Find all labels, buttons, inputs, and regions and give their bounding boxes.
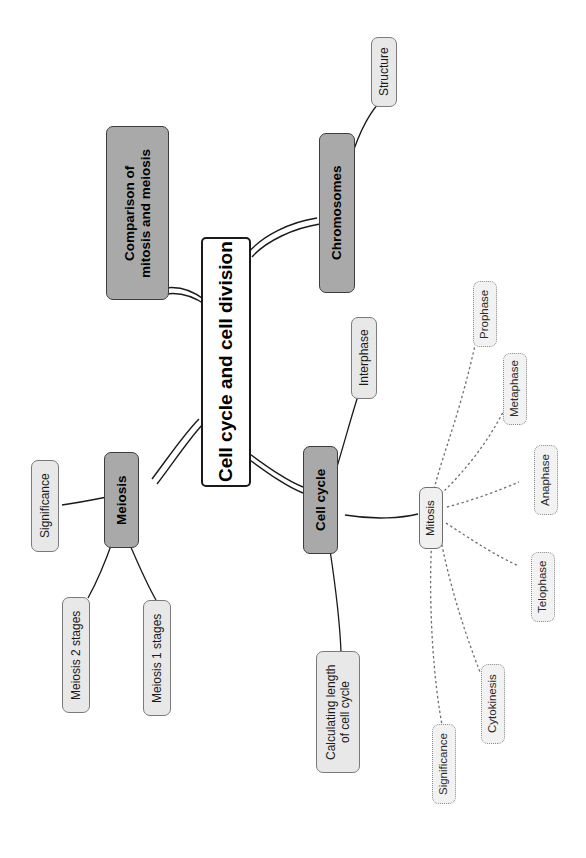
node-telophase[interactable]: Telophase — [531, 552, 555, 622]
node-mitosis[interactable]: Mitosis — [419, 487, 443, 549]
node-meiosis-label: Meiosis — [114, 475, 130, 525]
node-calculating-length-of-cell-cycle[interactable]: Calculating length of cell cycle — [316, 651, 360, 773]
link-meiosis-meiosis1 — [130, 545, 156, 600]
node-cytokinesis-label: Cytokinesis — [486, 675, 500, 734]
node-prophase-label: Prophase — [478, 289, 492, 338]
node-meiosis1-label: Meiosis 1 stages — [150, 613, 164, 702]
mindmap-canvas: Cell cycle and cell division Comparison … — [0, 0, 586, 858]
link-mitosis-prophase — [434, 332, 478, 489]
link-mitosis-significance — [431, 536, 443, 730]
node-interphase-label: Interphase — [357, 330, 371, 387]
node-meiosis-1-stages[interactable]: Meiosis 1 stages — [143, 600, 171, 716]
link-mitosis-metaphase — [441, 404, 507, 494]
link-mitosis-anaphase — [447, 482, 519, 507]
node-comparison-label: Comparison of mitosis and meiosis — [122, 148, 154, 277]
node-meiosis-significance[interactable]: Significance — [31, 460, 59, 552]
node-calculating-label: Calculating length of cell cycle — [324, 664, 352, 759]
node-meiosis-significance-label: Significance — [38, 474, 52, 539]
node-anaphase-label: Anaphase — [539, 454, 553, 506]
node-comparison-of-mitosis-and-meiosis[interactable]: Comparison of mitosis and meiosis — [106, 126, 169, 300]
node-telophase-label: Telophase — [536, 561, 550, 613]
node-anaphase[interactable]: Anaphase — [534, 445, 558, 515]
node-cell-cycle[interactable]: Cell cycle — [303, 446, 338, 554]
node-chromosomes-label: Chromosomes — [329, 166, 345, 261]
link-meiosis-meiosis2 — [88, 540, 113, 598]
node-chromosomes[interactable]: Chromosomes — [319, 133, 355, 293]
node-meiosis[interactable]: Meiosis — [104, 452, 139, 548]
link-mitosis-telophase — [446, 523, 519, 566]
node-mitosis-significance[interactable]: Significance — [432, 724, 456, 804]
node-root-label: Cell cycle and cell division — [215, 242, 237, 483]
link-cellcycle-mitosis — [345, 514, 418, 518]
node-mitosis-significance-label: Significance — [437, 733, 451, 795]
node-interphase[interactable]: Interphase — [351, 317, 377, 399]
link-meiosis-significance — [62, 497, 107, 505]
node-root[interactable]: Cell cycle and cell division — [201, 237, 251, 487]
node-metaphase[interactable]: Metaphase — [503, 353, 527, 425]
link-root-comparison — [165, 288, 205, 301]
node-cytokinesis[interactable]: Cytokinesis — [481, 664, 505, 744]
node-mitosis-label: Mitosis — [424, 500, 438, 536]
node-structure[interactable]: Structure — [371, 37, 397, 107]
node-meiosis2-label: Meiosis 2 stages — [69, 610, 83, 699]
link-root-meiosis — [152, 419, 199, 479]
link-cellcycle-interphase — [336, 396, 358, 470]
link-root-cellcycle — [247, 452, 303, 487]
link-root-chromosomes — [248, 218, 317, 253]
node-prophase[interactable]: Prophase — [473, 281, 497, 347]
node-meiosis-2-stages[interactable]: Meiosis 2 stages — [62, 597, 90, 713]
link-mitosis-cytokinesis — [440, 535, 480, 672]
node-metaphase-label: Metaphase — [508, 361, 522, 418]
node-cell-cycle-label: Cell cycle — [313, 469, 329, 531]
link-cellcycle-calculating — [330, 550, 341, 652]
node-structure-label: Structure — [377, 48, 391, 97]
